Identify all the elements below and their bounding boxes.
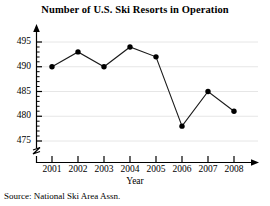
data-point [153, 54, 158, 59]
y-tick-label-490: 490 [5, 61, 31, 71]
y-tick-label-485: 485 [5, 86, 31, 96]
x-ticks [52, 156, 234, 163]
data-point [179, 123, 184, 128]
data-point [101, 64, 106, 69]
y-axis-arrowhead [33, 24, 40, 32]
x-axis-title: Year [0, 176, 270, 186]
data-line-series-0 [52, 47, 234, 126]
data-point [127, 44, 132, 49]
chart-figure: Number of U.S. Ski Resorts in Operation [0, 0, 270, 206]
y-tick-label-475: 475 [5, 135, 31, 145]
y-tick-label-480: 480 [5, 110, 31, 120]
data-point [49, 64, 54, 69]
x-tick-label-2008: 2008 [219, 164, 249, 174]
x-axis-arrowhead [251, 159, 259, 166]
source-note: Source: National Ski Area Assn. [4, 191, 120, 201]
data-point [205, 89, 210, 94]
data-point [231, 109, 236, 114]
y-axis-break-icon [33, 148, 40, 155]
y-tick-label-495: 495 [5, 36, 31, 46]
data-point [75, 49, 80, 54]
